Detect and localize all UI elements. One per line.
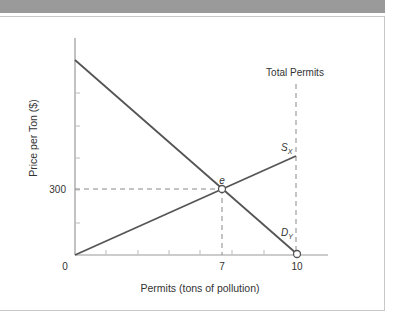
total-permits-label: Total Permits bbox=[266, 67, 324, 78]
chart-canvas: Total Permits e SX DY 300 0 7 10 Permits… bbox=[0, 0, 405, 321]
x-tick-7-label: 7 bbox=[219, 261, 225, 272]
origin-label: 0 bbox=[62, 261, 68, 272]
y-axis-ticks bbox=[75, 93, 80, 223]
x-tick-10-label: 10 bbox=[291, 261, 303, 272]
demand-label: DY bbox=[281, 227, 294, 240]
y-axis-title: Price per Ton ($) bbox=[27, 99, 39, 176]
x-axis-title: Permits (tons of pollution) bbox=[140, 282, 259, 294]
x-axis-ticks bbox=[106, 250, 264, 255]
equilibrium-point-marker bbox=[219, 186, 226, 193]
supply-curve-sx bbox=[75, 156, 296, 255]
equilibrium-label: e bbox=[219, 175, 225, 186]
demand-curve-dy bbox=[75, 60, 297, 254]
y-tick-300-label: 300 bbox=[49, 184, 66, 195]
supply-label: SX bbox=[281, 142, 293, 155]
total-permits-point-marker bbox=[294, 251, 301, 258]
